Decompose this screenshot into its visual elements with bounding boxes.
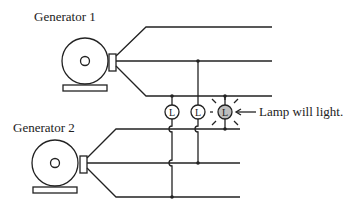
arrow-icon — [236, 109, 256, 115]
lamp-1-letter: L — [169, 107, 175, 118]
generator-2-icon — [32, 140, 87, 193]
circuit-diagram: L L L — [0, 0, 352, 208]
generator-1-lines — [116, 27, 272, 96]
lamp-2-letter: L — [195, 107, 201, 118]
lamp-3-letter: L — [222, 107, 228, 118]
generator-2-lines — [87, 129, 240, 197]
generator-1-icon — [62, 38, 116, 91]
